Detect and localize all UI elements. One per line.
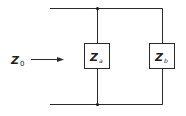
right-arrow-icon: [31, 57, 64, 62]
input-impedance-label: Z0: [10, 54, 24, 68]
bottom-junction-dot: [96, 103, 99, 106]
input-label-sub: 0: [20, 60, 24, 68]
za-label-sub: a: [99, 57, 103, 64]
parallel-impedance-diagram: Za Zb Z0: [0, 0, 186, 116]
input-label-main: Z: [10, 54, 20, 67]
za-label-main: Z: [89, 51, 99, 64]
top-junction-dot: [96, 7, 99, 10]
zb-label-sub: b: [164, 57, 168, 64]
zb-label-main: Z: [154, 51, 164, 64]
